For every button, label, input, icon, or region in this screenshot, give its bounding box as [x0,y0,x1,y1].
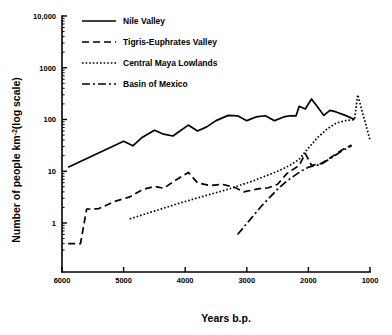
data-series-layer [68,95,370,244]
y-axis-title-main: Number of people km [10,135,22,242]
y-tick-label-10,000: 10,000 [33,12,56,21]
y-axis-title: Number of people km-2(log scale) [10,77,22,243]
legend-item-tigris-euphrates-valley[interactable]: Tigris-Euphrates Valley [82,37,217,47]
legend-item-central-maya-lowlands[interactable]: Central Maya Lowlands [82,58,218,68]
y-tick-label-100: 100 [43,115,56,124]
legend-label-central-maya-lowlands: Central Maya Lowlands [123,58,218,68]
y-tick-label-10: 10 [48,167,56,176]
x-tick-label-1000: 1000 [362,276,379,285]
y-axis-title-tail: (log scale) [10,77,22,129]
x-tick-label-5000: 5000 [115,276,132,285]
x-tick-label-3000: 3000 [238,276,255,285]
axis-labels-layer: Years b.p. Number of people km-2(log sca… [10,77,251,324]
legend-item-nile-valley[interactable]: Nile Valley [82,16,165,26]
y-tick-label-1000: 1000 [39,64,56,73]
x-tick-label-6000: 6000 [54,276,71,285]
x-tick-label-4000: 4000 [177,276,194,285]
series-line-central-maya-lowlands [130,95,370,219]
x-axis-title: Years b.p. [201,312,251,324]
y-axis-title-group: Number of people km-2(log scale) [10,77,22,243]
population-density-line-chart: 110100100010,000600050004000300020001000… [0,0,392,335]
axis-ticks-layer: 110100100010,000600050004000300020001000 [33,12,378,285]
axes-layer [62,16,370,272]
series-line-nile-valley [68,99,354,167]
y-tick-label-1: 1 [52,219,56,228]
chart-figure: 110100100010,000600050004000300020001000… [0,0,392,335]
legend-label-basin-of-mexico: Basin of Mexico [123,79,188,89]
x-tick-label-2000: 2000 [300,276,317,285]
legend-item-basin-of-mexico[interactable]: Basin of Mexico [82,79,188,89]
chart-legend: Nile ValleyTigris-Euphrates ValleyCentra… [82,16,218,89]
legend-label-tigris-euphrates-valley: Tigris-Euphrates Valley [123,37,217,47]
legend-label-nile-valley: Nile Valley [123,16,165,26]
